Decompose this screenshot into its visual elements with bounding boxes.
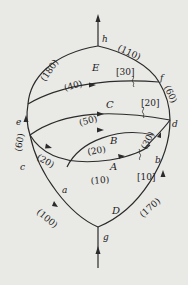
region-label-A: A — [109, 161, 117, 172]
arrow-icon — [96, 14, 101, 22]
edge-label-c-e: (60) — [13, 132, 26, 152]
bracket-label-d: [20] — [141, 98, 159, 108]
region-label-C: C — [106, 99, 114, 110]
edge-label-a-b-upper: (20) — [87, 144, 107, 157]
arrow-icon — [97, 128, 104, 133]
bracket-label-b: [10] — [137, 172, 155, 182]
arrow-icon — [52, 201, 58, 207]
edge-label-a-b-lower: (10) — [90, 174, 109, 186]
arrow-icon — [161, 170, 166, 177]
node-label-c: c — [20, 162, 25, 172]
edge-e-h — [28, 46, 98, 104]
edge-label-e-f: (40) — [63, 78, 83, 92]
arrow-icon — [45, 144, 52, 149]
arrow-icon — [97, 112, 104, 117]
region-label-D: D — [111, 205, 120, 216]
node-label-g: g — [103, 232, 109, 242]
node-label-d: d — [172, 119, 178, 129]
edge-label-g-c: (100) — [35, 207, 60, 230]
flow-network-diagram: h f e d c b a g E C B A D (180) (110) (6… — [0, 0, 188, 285]
node-label-f: f — [159, 73, 165, 83]
region-label-E: E — [91, 62, 100, 73]
bracket-label-f: [30] — [116, 67, 134, 77]
edge-label-e-h: (180) — [38, 58, 60, 84]
edge-label-g-d: (170) — [138, 196, 163, 220]
node-label-h: h — [102, 34, 108, 44]
node-label-e: e — [16, 117, 21, 127]
edge-label-h-f: (110) — [116, 43, 142, 62]
node-label-a: a — [62, 185, 67, 195]
region-label-B: B — [109, 135, 117, 146]
arrow-icon — [24, 115, 29, 122]
cut-mark-f — [132, 76, 134, 87]
node-label-b: b — [155, 155, 161, 165]
arrow-icon — [96, 246, 101, 254]
